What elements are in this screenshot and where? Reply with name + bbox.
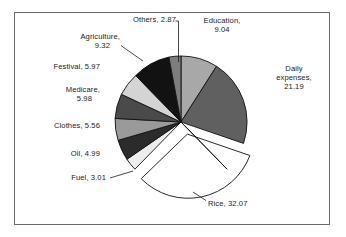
pie-label-fuel: Fuel, 3.01 — [30, 173, 106, 182]
pie-label-clothes: Clothes, 5.56 — [18, 121, 100, 130]
pie-label-festival: Festival, 5.97 — [22, 62, 100, 71]
pie-label-daily-line2: expenses, — [264, 73, 324, 82]
pie-label-education-line1: Education, — [186, 16, 258, 25]
pie-label-education-line2: 9.04 — [186, 25, 258, 34]
pie-label-oil: Oil, 4.99 — [28, 149, 100, 158]
pie-label-medicare-line1: Medicare, — [26, 85, 100, 94]
leader-line-fuel — [110, 171, 133, 178]
pie-label-rice: Rice, 32.07 — [208, 199, 288, 208]
pie-label-daily-line3: 21.19 — [264, 82, 324, 91]
pie-label-others: Others, 2.87 — [86, 15, 176, 24]
pie-label-daily-line1: Daily — [264, 64, 324, 73]
pie-label-agriculture-line2: 9.32 — [38, 41, 110, 50]
pie-label-agriculture-line1: Agriculture, — [38, 32, 120, 41]
pie-slices — [115, 56, 250, 198]
pie-chart-figure: Others, 2.87 Education, 9.04 Agriculture… — [0, 0, 346, 237]
leader-line-agriculture — [121, 46, 143, 62]
pie-label-medicare-line2: 5.98 — [26, 94, 92, 103]
